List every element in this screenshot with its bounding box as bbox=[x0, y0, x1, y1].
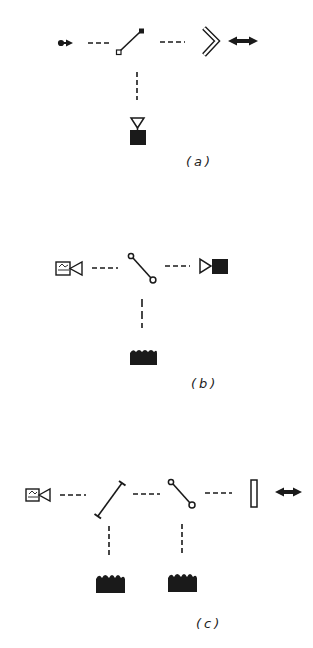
panel-label-b: (b) bbox=[191, 376, 218, 391]
panel-c bbox=[26, 479, 302, 593]
double-arrow-icon bbox=[228, 37, 258, 46]
mirror-bar-ends-icon bbox=[95, 481, 126, 519]
film-block-icon bbox=[168, 574, 197, 592]
optical-setup-diagram bbox=[0, 0, 313, 648]
switch-circle-ends-icon bbox=[128, 253, 156, 283]
camera-icon bbox=[56, 262, 82, 275]
chevron-reflector-icon bbox=[204, 28, 217, 55]
panel-b bbox=[56, 253, 228, 365]
film-block-icon bbox=[96, 575, 125, 593]
double-arrow-icon bbox=[275, 488, 302, 497]
rectangle-window-icon bbox=[251, 480, 257, 507]
camera-icon bbox=[26, 489, 50, 501]
detector-icon bbox=[130, 118, 146, 145]
switch-circle-ends-icon bbox=[168, 479, 195, 508]
source-arrow-icon bbox=[59, 40, 73, 47]
panel-label-c: (c) bbox=[196, 616, 222, 631]
film-block-icon bbox=[130, 350, 157, 365]
mirror-square-ends-icon bbox=[117, 29, 145, 55]
panel-label-a: (a) bbox=[186, 154, 213, 169]
panel-a bbox=[59, 28, 258, 145]
detector-sideways-icon bbox=[200, 259, 228, 274]
